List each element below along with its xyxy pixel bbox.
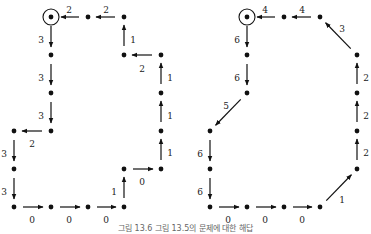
edge-cost-label: 6 <box>234 73 240 83</box>
grid-node <box>12 129 17 134</box>
grid-node <box>159 91 164 96</box>
edge-cost-label: 6 <box>234 35 240 45</box>
grid-node <box>49 205 54 210</box>
edge-cost-label: 2 <box>363 148 369 158</box>
edge-cost-label: 3 <box>1 187 7 197</box>
grid-node <box>159 53 164 58</box>
edge-cost-label: 4 <box>262 5 268 15</box>
grid-node <box>355 167 360 172</box>
edge-cost-label: 2 <box>103 5 109 15</box>
left-grid-path-diagram: 221211101000332333 <box>1 5 173 225</box>
grid-node <box>245 15 250 20</box>
grid-node <box>318 15 323 20</box>
edge-cost-label: 6 <box>197 187 203 197</box>
edge-cost-label: 1 <box>167 111 173 121</box>
grid-node <box>245 91 250 96</box>
grid-node <box>12 205 17 210</box>
edge-cost-label: 3 <box>38 35 44 45</box>
grid-node <box>355 129 360 134</box>
grid-node <box>122 53 127 58</box>
edge-cost-label: 4 <box>299 5 305 15</box>
grid-node <box>282 15 287 20</box>
edge-cost-label: 3 <box>339 24 345 34</box>
edge-cost-label: 2 <box>29 139 35 149</box>
edge-cost-label: 1 <box>130 35 136 45</box>
grid-node <box>86 15 91 20</box>
edge-cost-label: 2 <box>139 64 145 74</box>
edge-cost-label: 1 <box>167 148 173 158</box>
edge-cost-label: 3 <box>38 73 44 83</box>
grid-node <box>49 91 54 96</box>
edge-cost-label: 1 <box>111 187 117 197</box>
edge-cost-label: 3 <box>1 149 7 159</box>
grid-node <box>208 205 213 210</box>
edge-cost-label: 5 <box>223 101 229 111</box>
grid-node <box>208 167 213 172</box>
grid-node <box>208 129 213 134</box>
grid-node <box>122 15 127 20</box>
grid-node <box>245 53 250 58</box>
edge-cost-label: 2 <box>363 73 369 83</box>
grid-node <box>49 15 54 20</box>
grid-node <box>282 205 287 210</box>
grid-node <box>122 167 127 172</box>
edge-cost-label: 3 <box>38 111 44 121</box>
grid-node <box>245 205 250 210</box>
edge-cost-label: 1 <box>339 195 345 205</box>
right-diagonal-path-diagram: 443222100066566 <box>197 5 369 225</box>
edge-cost-label: 1 <box>167 73 173 83</box>
edge-cost-label: 2 <box>363 111 369 121</box>
edge-cost-label: 6 <box>197 149 203 159</box>
grid-node <box>159 167 164 172</box>
grid-node <box>122 205 127 210</box>
grid-node <box>318 205 323 210</box>
grid-node <box>49 53 54 58</box>
grid-node <box>355 53 360 58</box>
grid-node <box>159 129 164 134</box>
edge-cost-label: 2 <box>66 5 72 15</box>
figure-caption: 그림 13.6 그림 13.5의 문제에 대한 해답 <box>0 222 371 233</box>
grid-node <box>12 167 17 172</box>
grid-node <box>355 91 360 96</box>
grid-node <box>49 129 54 134</box>
edge-cost-label: 0 <box>139 177 145 187</box>
path-diagrams: 221211101000332333 443222100066566 <box>0 0 371 234</box>
grid-node <box>86 205 91 210</box>
